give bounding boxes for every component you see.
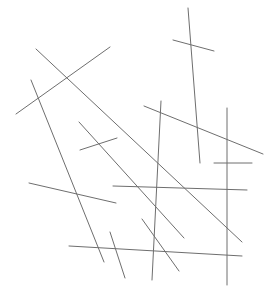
line-drawing-canvas	[0, 0, 275, 296]
canvas-background	[0, 0, 275, 296]
